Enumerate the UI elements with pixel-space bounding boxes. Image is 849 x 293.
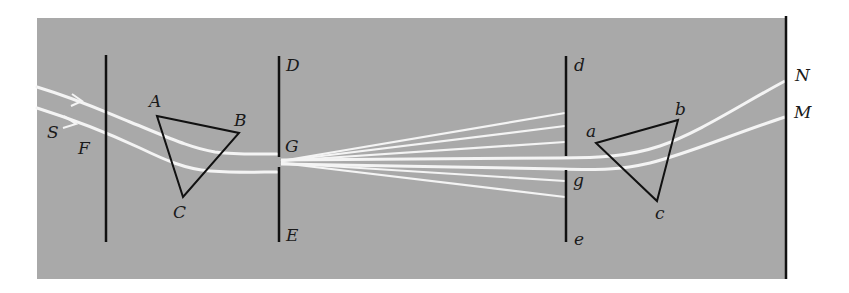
label-B: B bbox=[233, 110, 247, 130]
label-S: S bbox=[47, 122, 59, 142]
label-N: N bbox=[794, 65, 811, 85]
label-G: G bbox=[285, 136, 299, 156]
label-E: E bbox=[285, 225, 299, 245]
label-a: a bbox=[586, 121, 596, 141]
newton-prism-diagram: S F A B C D G E d g e a b c N M bbox=[0, 0, 849, 293]
background-panel bbox=[37, 18, 787, 279]
label-M: M bbox=[793, 102, 812, 122]
label-F: F bbox=[77, 138, 91, 158]
label-A: A bbox=[147, 91, 161, 111]
label-g: g bbox=[573, 170, 584, 190]
label-c: c bbox=[655, 203, 665, 223]
label-e: e bbox=[574, 229, 584, 249]
label-D: D bbox=[285, 55, 300, 75]
label-C: C bbox=[173, 202, 186, 222]
label-b: b bbox=[675, 99, 686, 119]
label-d: d bbox=[574, 55, 585, 75]
